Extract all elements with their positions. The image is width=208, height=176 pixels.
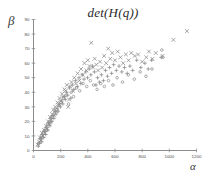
data-point-circle: [78, 90, 81, 93]
data-point-plus: [112, 63, 116, 67]
data-point-plus: [102, 79, 106, 83]
data-point-plus: [114, 69, 118, 73]
data-point-cross: [119, 55, 123, 59]
svg-text:200: 200: [57, 154, 65, 159]
data-point-cross: [98, 60, 102, 64]
data-point-cross: [106, 47, 110, 51]
data-point-plus: [131, 69, 135, 73]
data-point-cross: [154, 51, 158, 55]
data-point-cross: [110, 51, 114, 55]
data-point-cross: [104, 61, 108, 65]
data-point-cross: [116, 50, 120, 54]
svg-text:0: 0: [32, 154, 35, 159]
data-point-cross: [79, 67, 83, 71]
data-point-cross: [185, 29, 189, 33]
data-point-cross: [113, 58, 117, 62]
data-point-circle: [96, 88, 99, 91]
data-points: [36, 29, 189, 148]
data-point-plus: [108, 66, 112, 70]
data-point-circle: [103, 85, 106, 88]
svg-text:20: 20: [25, 119, 30, 124]
data-point-cross: [89, 41, 93, 45]
svg-text:50: 50: [25, 75, 30, 80]
data-point-circle: [161, 49, 164, 52]
svg-text:600: 600: [111, 154, 119, 159]
data-point-cross: [100, 66, 104, 70]
svg-text:800: 800: [139, 154, 147, 159]
scatter-plot: 0102030405060708090020040060080010001200: [0, 0, 208, 176]
svg-text:30: 30: [25, 105, 30, 110]
data-point-cross: [124, 53, 128, 57]
data-point-cross: [96, 69, 100, 73]
data-point-cross: [127, 58, 131, 62]
data-point-cross: [136, 53, 140, 57]
data-point-circle: [121, 81, 124, 84]
data-point-plus: [143, 61, 147, 65]
data-point-plus: [106, 74, 110, 78]
data-point-cross: [147, 50, 151, 54]
data-point-circle: [89, 79, 92, 82]
data-point-plus: [110, 71, 114, 75]
svg-text:80: 80: [25, 32, 30, 37]
data-point-circle: [107, 79, 110, 82]
data-point-cross: [86, 58, 90, 62]
data-point-plus: [123, 66, 127, 70]
data-point-cross: [93, 57, 97, 61]
data-point-cross: [133, 54, 137, 58]
data-point-circle: [139, 71, 142, 74]
data-point-plus: [96, 76, 100, 80]
data-point-circle: [72, 95, 75, 98]
data-point-plus: [128, 64, 132, 68]
data-point-plus: [135, 58, 139, 62]
data-point-plus: [100, 73, 104, 77]
svg-text:1000: 1000: [164, 154, 174, 159]
svg-text:0: 0: [27, 148, 30, 153]
data-point-circle: [151, 68, 154, 71]
svg-text:60: 60: [25, 61, 30, 66]
data-point-cross: [94, 63, 98, 67]
data-point-circle: [85, 85, 88, 88]
data-point-circle: [67, 103, 70, 106]
data-point-plus: [120, 70, 124, 74]
data-point-circle: [145, 75, 148, 78]
data-point-cross: [121, 61, 125, 65]
chart-page: det(H(q)) β α 01020304050607080900200400…: [0, 0, 208, 176]
svg-text:70: 70: [25, 46, 30, 51]
svg-text:1200: 1200: [192, 154, 202, 159]
data-point-cross: [108, 57, 112, 61]
data-point-cross: [70, 80, 74, 84]
data-point-cross: [172, 38, 176, 42]
svg-text:400: 400: [84, 154, 92, 159]
svg-text:10: 10: [25, 134, 30, 139]
axes: [34, 20, 197, 151]
data-point-plus: [82, 77, 86, 81]
data-point-circle: [99, 82, 102, 85]
data-point-plus: [146, 67, 150, 71]
data-point-cross: [76, 71, 80, 75]
data-point-plus: [139, 66, 143, 70]
data-point-cross: [65, 83, 69, 87]
svg-text:40: 40: [25, 90, 30, 95]
data-point-plus: [117, 64, 121, 68]
data-point-plus: [89, 73, 93, 77]
data-point-plus: [86, 76, 90, 80]
data-point-plus: [92, 70, 96, 74]
data-point-cross: [102, 54, 106, 58]
data-point-circle: [112, 84, 115, 87]
svg-text:90: 90: [25, 17, 30, 22]
data-point-cross: [144, 55, 148, 59]
data-point-circle: [133, 78, 136, 81]
data-point-circle: [116, 76, 119, 79]
